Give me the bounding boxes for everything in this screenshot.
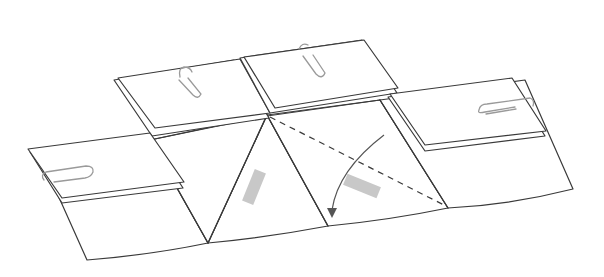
folding-diagram <box>0 0 604 277</box>
diagram-canvas <box>0 0 604 277</box>
